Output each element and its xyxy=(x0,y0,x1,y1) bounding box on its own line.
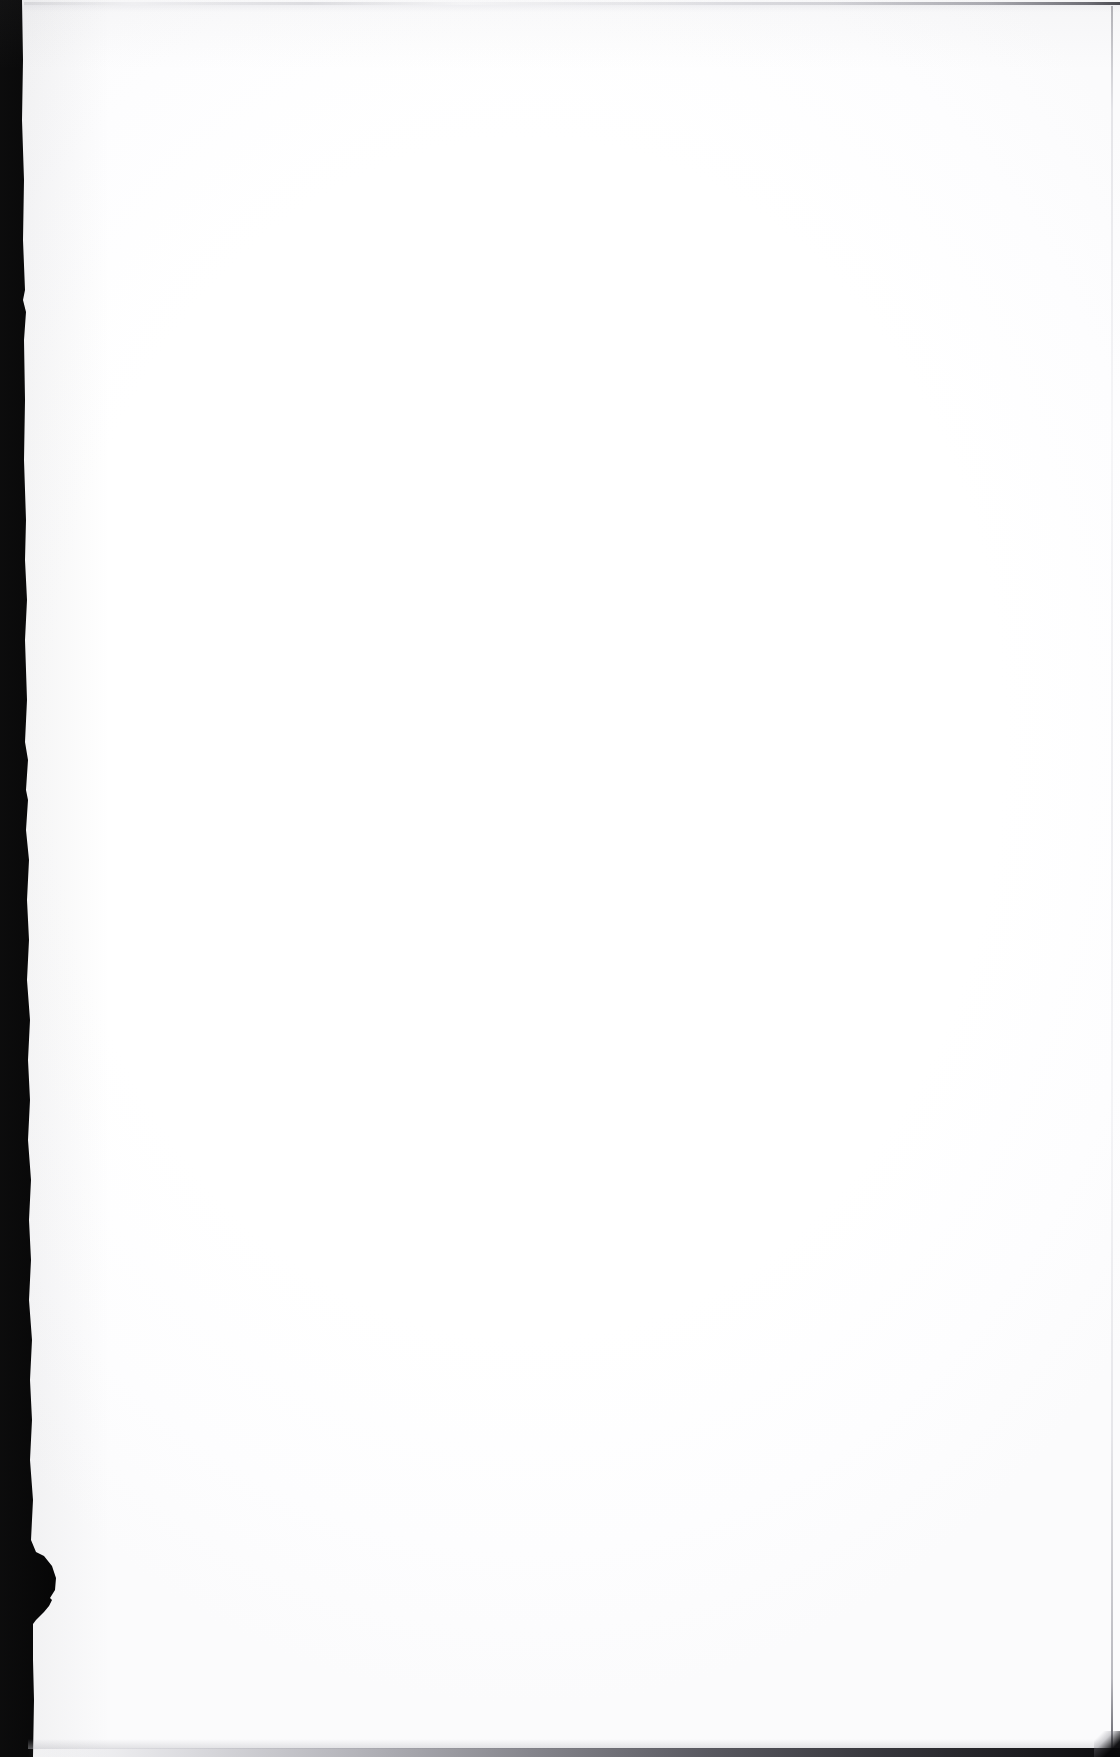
bottom-page-edge xyxy=(28,1748,1120,1757)
top-page-edge-feather xyxy=(24,5,1120,12)
page-body-text xyxy=(120,140,1020,1590)
bottom-right-corner-shadow xyxy=(1094,1731,1120,1757)
right-page-edge xyxy=(1111,6,1113,1748)
gutter-shape-icon xyxy=(0,0,62,1757)
scanned-page xyxy=(0,0,1120,1757)
left-scan-gutter xyxy=(0,0,62,1757)
